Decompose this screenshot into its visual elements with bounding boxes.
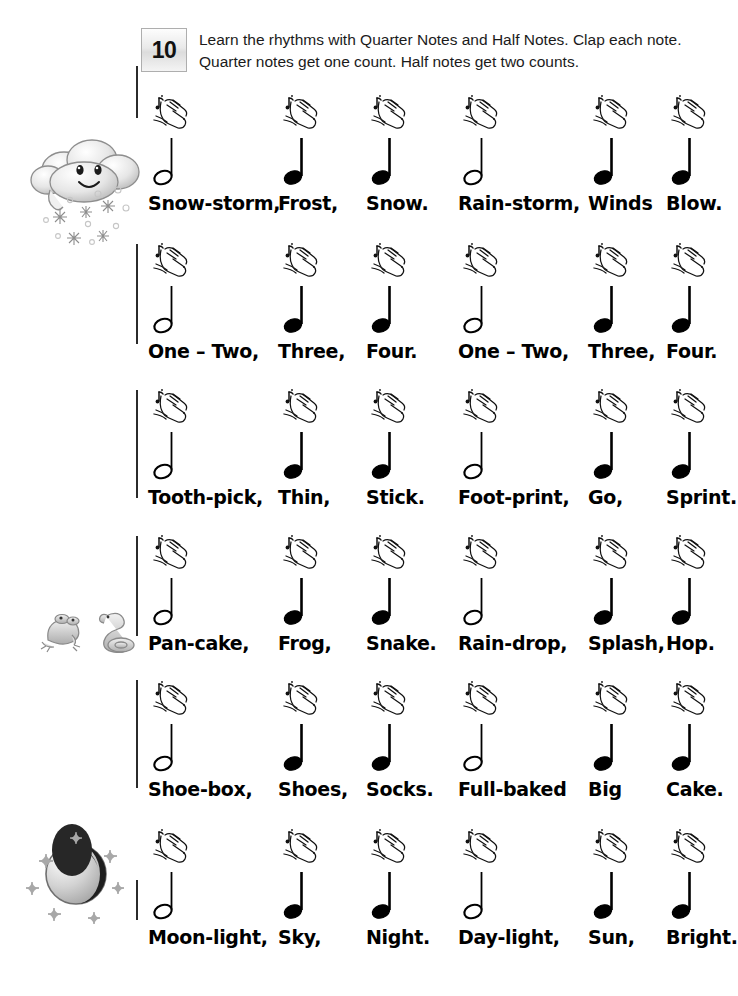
half-note-icon[interactable]: [148, 386, 194, 486]
clapping-hands-icon: [278, 678, 320, 720]
notes-line: [148, 678, 728, 778]
quarter-note-icon[interactable]: [666, 92, 712, 192]
lyric-text: Hop.: [666, 632, 715, 654]
half-note-icon[interactable]: [148, 532, 194, 632]
clapping-hands-icon: [588, 532, 630, 574]
quarter-note-icon[interactable]: [278, 532, 324, 632]
notes-line: [148, 386, 728, 486]
notehead: [589, 722, 631, 776]
barline-segment: [136, 66, 138, 118]
quarter-note-icon[interactable]: [366, 92, 412, 192]
clapping-hands-icon: [278, 532, 320, 574]
frog-snake-decoration: [28, 600, 148, 660]
clapping-hands-icon: [366, 826, 408, 868]
half-note-icon[interactable]: [148, 826, 194, 926]
half-note-icon[interactable]: [148, 92, 194, 192]
quarter-note-icon[interactable]: [278, 826, 324, 926]
exercise-instructions: Learn the rhythms with Quarter Notes and…: [199, 28, 719, 73]
notehead: [667, 722, 709, 776]
notehead: [149, 870, 191, 924]
quarter-note-icon[interactable]: [588, 92, 634, 192]
lyric-text: One – Two,: [148, 340, 259, 362]
quarter-note-icon[interactable]: [366, 826, 412, 926]
lyric-text: Four.: [366, 340, 417, 362]
clapping-hands-icon: [666, 826, 708, 868]
half-note-icon[interactable]: [458, 678, 504, 778]
clapping-hands-icon: [458, 532, 500, 574]
half-note-icon[interactable]: [458, 386, 504, 486]
lyrics-line: Pan-cake,Frog,Snake.Rain-drop,Splash,Hop…: [148, 632, 728, 658]
quarter-note-icon[interactable]: [366, 678, 412, 778]
half-note-icon[interactable]: [458, 92, 504, 192]
notes-line: [148, 826, 728, 926]
clapping-hands-icon: [458, 386, 500, 428]
notehead: [459, 284, 501, 338]
notehead: [589, 430, 631, 484]
clapping-hands-icon: [278, 386, 320, 428]
quarter-note-icon[interactable]: [666, 240, 712, 340]
lyrics-line: Shoe-box,Shoes,Socks.Full-bakedBigCake.: [148, 778, 728, 804]
quarter-note-icon[interactable]: [278, 240, 324, 340]
lyric-text: Three,: [588, 340, 655, 362]
quarter-note-icon[interactable]: [666, 826, 712, 926]
quarter-note-icon[interactable]: [588, 678, 634, 778]
quarter-note-icon[interactable]: [666, 678, 712, 778]
notehead: [279, 284, 321, 338]
quarter-note-icon[interactable]: [588, 386, 634, 486]
quarter-note-icon[interactable]: [366, 532, 412, 632]
clapping-hands-icon: [278, 240, 320, 282]
clapping-hands-icon: [278, 826, 320, 868]
clapping-hands-icon: [588, 386, 630, 428]
notehead: [367, 870, 409, 924]
half-note-icon[interactable]: [458, 240, 504, 340]
quarter-note-icon[interactable]: [278, 92, 324, 192]
clapping-hands-icon: [666, 240, 708, 282]
lyric-text: Stick.: [366, 486, 425, 508]
notehead: [667, 870, 709, 924]
lyric-text: Rain-drop,: [458, 632, 567, 654]
notehead: [589, 136, 631, 190]
barline-segment: [136, 390, 138, 498]
notehead: [367, 136, 409, 190]
quarter-note-icon[interactable]: [588, 240, 634, 340]
notehead: [459, 722, 501, 776]
lyric-text: Shoe-box,: [148, 778, 252, 800]
notehead: [279, 870, 321, 924]
notehead: [667, 576, 709, 630]
clapping-hands-icon: [366, 386, 408, 428]
lyric-text: Thin,: [278, 486, 330, 508]
lyric-text: Blow.: [666, 192, 722, 214]
notehead: [279, 430, 321, 484]
lyric-text: Sky,: [278, 926, 321, 948]
exercise-number-badge: 10: [141, 28, 187, 72]
rhythm-row: Pan-cake,Frog,Snake.Rain-drop,Splash,Hop…: [148, 532, 728, 657]
notehead: [149, 576, 191, 630]
notehead: [279, 576, 321, 630]
quarter-note-icon[interactable]: [278, 386, 324, 486]
quarter-note-icon[interactable]: [366, 386, 412, 486]
lyric-text: Sprint.: [666, 486, 737, 508]
lyric-text: Big: [588, 778, 622, 800]
notehead: [667, 284, 709, 338]
quarter-note-icon[interactable]: [278, 678, 324, 778]
half-note-icon[interactable]: [458, 532, 504, 632]
notehead: [459, 576, 501, 630]
half-note-icon[interactable]: [458, 826, 504, 926]
lyric-text: Frost,: [278, 192, 338, 214]
lyric-text: Moon-light,: [148, 926, 268, 948]
lyric-text: Foot-print,: [458, 486, 569, 508]
clapping-hands-icon: [278, 92, 320, 134]
quarter-note-icon[interactable]: [588, 532, 634, 632]
clapping-hands-icon: [366, 92, 408, 134]
notehead: [589, 284, 631, 338]
clapping-hands-icon: [148, 826, 190, 868]
quarter-note-icon[interactable]: [366, 240, 412, 340]
half-note-icon[interactable]: [148, 240, 194, 340]
quarter-note-icon[interactable]: [666, 386, 712, 486]
clapping-hands-icon: [458, 678, 500, 720]
half-note-icon[interactable]: [148, 678, 194, 778]
lyrics-line: Tooth-pick,Thin,Stick.Foot-print,Go,Spri…: [148, 486, 728, 512]
quarter-note-icon[interactable]: [666, 532, 712, 632]
clapping-hands-icon: [588, 826, 630, 868]
quarter-note-icon[interactable]: [588, 826, 634, 926]
